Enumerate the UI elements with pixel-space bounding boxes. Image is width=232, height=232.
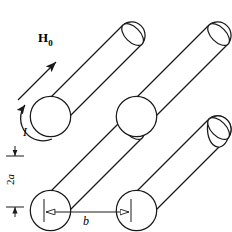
field-symbol: H [38, 30, 48, 45]
field-subscript: 0 [48, 38, 53, 48]
diameter-prefix: 2 [4, 180, 16, 186]
figure-canvas: H0 I 2a b [0, 0, 232, 232]
diameter-label: 2a [5, 170, 16, 190]
field-label: H0 [38, 31, 53, 48]
cylinder-near-circle [30, 190, 70, 230]
field-arrow-line [18, 62, 56, 100]
spacing-label: b [83, 215, 89, 227]
cylinder-array-diagram [0, 0, 232, 232]
cylinder-near-circle [30, 96, 70, 136]
current-label: I [23, 126, 27, 138]
cylinder-near-circle [116, 190, 156, 230]
diameter-symbol: a [4, 174, 16, 180]
cylinder-near-circle [116, 96, 156, 136]
